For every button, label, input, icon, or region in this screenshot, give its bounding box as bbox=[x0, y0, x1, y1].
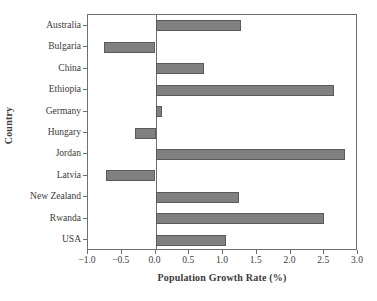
y-tick-mark bbox=[83, 196, 87, 197]
y-tick-mark bbox=[83, 218, 87, 219]
x-tick-mark bbox=[357, 250, 358, 254]
y-tick-label-germany: Germany bbox=[46, 106, 81, 116]
y-tick-mark bbox=[83, 25, 87, 26]
x-tick-label: 1.0 bbox=[216, 255, 228, 265]
bar-usa bbox=[156, 235, 227, 246]
x-tick-label: 2.0 bbox=[284, 255, 296, 265]
x-tick-label: −1.0 bbox=[78, 255, 95, 265]
bar-china bbox=[156, 63, 205, 74]
y-axis-title: Country bbox=[2, 0, 16, 250]
bar-new-zealand bbox=[156, 192, 240, 203]
x-tick-mark bbox=[290, 250, 291, 254]
y-tick-label-hungary: Hungary bbox=[48, 127, 81, 137]
x-axis-title: Population Growth Rate (%) bbox=[87, 272, 357, 283]
y-tick-label-ethiopia: Ethiopia bbox=[49, 84, 81, 94]
x-tick-mark bbox=[323, 250, 324, 254]
y-tick-label-usa: USA bbox=[62, 234, 81, 244]
y-tick-label-jordan: Jordan bbox=[56, 148, 81, 158]
x-tick-mark bbox=[256, 250, 257, 254]
bar-rwanda bbox=[156, 213, 325, 224]
population-growth-bar-chart: Country AustraliaBulgariaChinaEthiopiaGe… bbox=[0, 0, 377, 301]
y-tick-mark bbox=[83, 68, 87, 69]
x-tick-label: 0.5 bbox=[182, 255, 194, 265]
bar-hungary bbox=[135, 128, 155, 139]
x-tick-mark bbox=[155, 250, 156, 254]
x-tick-mark bbox=[222, 250, 223, 254]
bar-ethiopia bbox=[156, 85, 335, 96]
x-tick-label: 1.5 bbox=[250, 255, 262, 265]
plot-area bbox=[87, 14, 357, 250]
x-tick-label: −0.5 bbox=[112, 255, 129, 265]
y-tick-mark bbox=[83, 46, 87, 47]
x-tick-mark bbox=[121, 250, 122, 254]
y-tick-label-australia: Australia bbox=[46, 20, 81, 30]
x-tick-mark bbox=[87, 250, 88, 254]
x-tick-label: 2.5 bbox=[317, 255, 329, 265]
y-axis-tick-labels: AustraliaBulgariaChinaEthiopiaGermanyHun… bbox=[16, 14, 85, 250]
y-tick-mark bbox=[83, 111, 87, 112]
y-axis-title-text: Country bbox=[4, 106, 15, 144]
y-tick-label-bulgaria: Bulgaria bbox=[48, 41, 81, 51]
y-tick-mark bbox=[83, 89, 87, 90]
y-tick-mark bbox=[83, 153, 87, 154]
y-tick-label-rwanda: Rwanda bbox=[50, 213, 81, 223]
y-tick-mark bbox=[83, 239, 87, 240]
bar-jordan bbox=[156, 149, 345, 160]
y-tick-mark bbox=[83, 132, 87, 133]
y-tick-label-latvia: Latvia bbox=[57, 170, 81, 180]
bar-latvia bbox=[106, 170, 156, 181]
bar-australia bbox=[156, 20, 242, 31]
x-tick-label: 3.0 bbox=[351, 255, 363, 265]
y-tick-label-china: China bbox=[58, 63, 81, 73]
x-tick-mark bbox=[188, 250, 189, 254]
bar-bulgaria bbox=[104, 42, 156, 53]
bar-germany bbox=[156, 106, 162, 117]
y-tick-label-new-zealand: New Zealand bbox=[30, 191, 81, 201]
y-tick-mark bbox=[83, 175, 87, 176]
x-tick-label: 0.0 bbox=[149, 255, 161, 265]
